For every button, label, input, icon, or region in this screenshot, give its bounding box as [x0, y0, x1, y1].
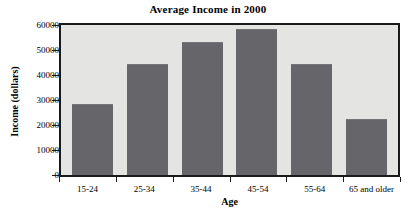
bar[interactable]	[236, 29, 277, 175]
x-tick-mark	[230, 177, 231, 182]
plot-area	[59, 23, 400, 177]
bar-slot	[65, 25, 120, 175]
bar-series	[61, 25, 398, 175]
x-tick-label: 35-44	[191, 184, 212, 194]
x-tick-mark	[116, 177, 117, 182]
x-tick-label: 65 and older	[349, 184, 394, 194]
bar[interactable]	[291, 64, 332, 175]
bar-slot	[284, 25, 339, 175]
x-tick-label: 15-24	[77, 184, 98, 194]
x-tick-mark	[173, 177, 174, 182]
x-tick-label: 55-64	[304, 184, 325, 194]
y-tick-mark	[52, 100, 59, 101]
x-tick-mark	[59, 177, 60, 182]
y-tick-mark	[52, 175, 59, 176]
y-tick-mark	[52, 75, 59, 76]
x-tick-mark	[400, 177, 401, 182]
bar-slot	[175, 25, 230, 175]
bar[interactable]	[346, 119, 387, 175]
bar-slot	[120, 25, 175, 175]
x-tick-mark	[286, 177, 287, 182]
bar-slot	[339, 25, 394, 175]
x-tick-label: 45-54	[247, 184, 268, 194]
y-tick-mark	[52, 25, 59, 26]
bar-chart: Average Income in 2000 Income (dollars) …	[0, 0, 416, 216]
y-tick-mark	[52, 125, 59, 126]
bar[interactable]	[127, 64, 168, 175]
chart-title: Average Income in 2000	[0, 3, 416, 15]
x-axis-title: Age	[59, 196, 400, 207]
bar[interactable]	[182, 42, 223, 176]
x-tick-label: 25-34	[134, 184, 155, 194]
x-tick-mark	[343, 177, 344, 182]
y-tick-mark	[52, 150, 59, 151]
y-axis: 6000050000400003000020000100000	[0, 0, 59, 216]
bar[interactable]	[72, 104, 113, 175]
bar-slot	[229, 25, 284, 175]
y-tick-mark	[52, 50, 59, 51]
